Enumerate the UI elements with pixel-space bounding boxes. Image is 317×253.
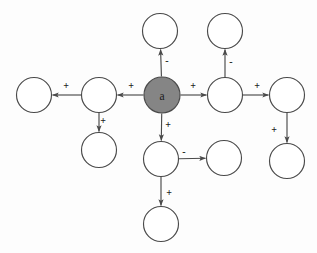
edge-sign-positive: +	[254, 80, 260, 91]
node-label: a	[159, 90, 164, 102]
node-circle[interactable]	[207, 141, 242, 176]
edge-sign-positive: +	[271, 124, 277, 135]
node-circle[interactable]	[144, 207, 179, 242]
graph-node[interactable]	[144, 207, 179, 242]
node-circle[interactable]	[17, 78, 52, 113]
node-circle[interactable]	[270, 78, 305, 113]
edge-sign-negative: -	[182, 146, 185, 157]
graph-node[interactable]	[270, 144, 305, 179]
edge-sign-negative: -	[229, 56, 232, 67]
node-circle[interactable]	[144, 142, 179, 177]
graph-node[interactable]	[270, 78, 305, 113]
graph-edge	[161, 49, 162, 76]
node-circle[interactable]	[208, 14, 243, 49]
graph-node[interactable]	[17, 78, 52, 113]
edge-sign-positive: +	[100, 115, 106, 126]
influence-graph-svg: a -+++++-++-+	[0, 0, 317, 253]
edge-sign-negative: -	[165, 55, 168, 66]
edge-sign-positive: +	[166, 187, 172, 198]
node-circle[interactable]	[82, 78, 117, 113]
graph-node[interactable]	[208, 78, 243, 113]
graph-node[interactable]	[208, 14, 243, 49]
graph-node[interactable]	[143, 14, 178, 49]
edge-labels-layer: -+++++-++-+	[63, 55, 277, 198]
graph-node[interactable]	[82, 133, 117, 168]
node-circle[interactable]	[270, 144, 305, 179]
edge-sign-positive: +	[165, 119, 171, 130]
node-circle[interactable]	[143, 14, 178, 49]
graph-node[interactable]	[207, 141, 242, 176]
graph-node-highlighted[interactable]: a	[144, 77, 180, 113]
nodes-layer: a	[17, 14, 305, 242]
edge-sign-positive: +	[190, 80, 196, 91]
node-circle[interactable]	[82, 133, 117, 168]
node-circle[interactable]	[208, 78, 243, 113]
edge-sign-positive: +	[63, 80, 69, 91]
edge-sign-positive: +	[128, 80, 134, 91]
graph-node[interactable]	[82, 78, 117, 113]
graph-node[interactable]	[144, 142, 179, 177]
diagram-canvas: a -+++++-++-+	[0, 0, 317, 253]
